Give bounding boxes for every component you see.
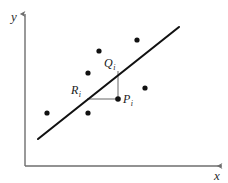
data-point-1 bbox=[44, 110, 49, 115]
label-p-i-base: P bbox=[122, 92, 131, 106]
data-point-7 bbox=[115, 96, 121, 102]
point-labels-group: Pi Qi Ri bbox=[70, 56, 133, 108]
label-r-i: Ri bbox=[70, 83, 81, 99]
label-q-i-base: Q bbox=[104, 56, 113, 70]
y-axis-label: y bbox=[9, 9, 17, 24]
label-q-i-sub: i bbox=[113, 63, 115, 72]
label-r-i-sub: i bbox=[79, 90, 81, 99]
label-p-i: Pi bbox=[122, 92, 133, 108]
data-point-5 bbox=[134, 37, 139, 42]
label-p-i-sub: i bbox=[131, 99, 133, 108]
data-point-4 bbox=[96, 48, 101, 53]
axes-group: y x bbox=[9, 9, 222, 183]
x-axis-label: x bbox=[213, 168, 220, 183]
data-point-3 bbox=[85, 70, 90, 75]
regression-line bbox=[38, 27, 179, 139]
data-point-6 bbox=[142, 85, 147, 90]
figure-canvas: y x Pi Qi R bbox=[0, 0, 228, 183]
residual-construction-group bbox=[87, 71, 118, 99]
regression-residual-figure: y x Pi Qi R bbox=[0, 0, 228, 183]
label-q-i: Qi bbox=[104, 56, 115, 72]
label-r-i-base: R bbox=[70, 83, 79, 97]
data-point-2 bbox=[85, 110, 90, 115]
